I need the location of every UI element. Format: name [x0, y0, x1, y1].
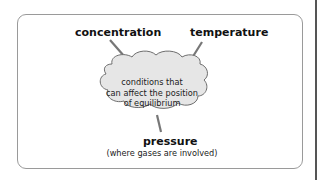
factor-concentration: concentration: [75, 26, 161, 39]
cloud-line-1: conditions that: [104, 77, 200, 88]
pressure-note: (where gases are involved): [94, 148, 230, 158]
cloud-line-2: can affect the position: [104, 88, 200, 99]
cloud-text: conditions that can affect the position …: [104, 77, 200, 109]
factor-temperature: temperature: [190, 26, 268, 39]
cloud-line-3: of equilibrium: [104, 98, 200, 109]
connector-pressure: [157, 115, 161, 132]
connector-concentration: [110, 40, 124, 56]
factor-pressure: pressure: [143, 135, 198, 148]
